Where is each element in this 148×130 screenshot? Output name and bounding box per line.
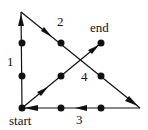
dot (58, 105, 65, 112)
segment-label-4: 4 (81, 70, 88, 83)
segment-label-3: 3 (76, 113, 83, 126)
dot (98, 40, 105, 47)
segment-3-arrow-icon (75, 105, 87, 111)
segment-1-arrow-icon (18, 14, 24, 26)
dot (19, 40, 26, 47)
end-label: end (90, 21, 109, 34)
dot (98, 105, 105, 112)
start-label: start (9, 114, 31, 127)
dot (58, 73, 65, 80)
dot (58, 40, 65, 47)
segment-3-end-arrow-icon (24, 105, 38, 111)
dot (19, 105, 26, 112)
segment-label-2: 2 (57, 15, 64, 28)
dot (19, 73, 26, 80)
segment-2-arrow-icon (41, 27, 52, 37)
nine-dots-diagram (0, 0, 148, 130)
segment-label-1: 1 (7, 55, 14, 68)
dot (98, 73, 105, 80)
segment-1-line (21, 12, 22, 108)
